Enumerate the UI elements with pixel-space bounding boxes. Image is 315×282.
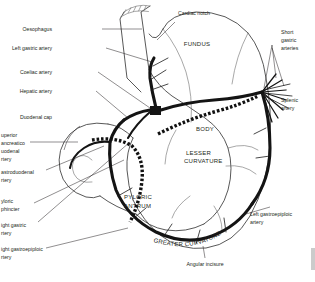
label-gastroduodenal-artery-line2: rtery (1, 177, 12, 183)
leader-short-gastric-3 (272, 48, 284, 86)
pyloric-sphincter-marker (92, 139, 142, 222)
label-pyloric-sphincter-line2: phincter (1, 206, 20, 212)
label-short-gastric-arteries-line3: arteries (281, 45, 299, 51)
label-angular-incisure: Angular incisure (186, 261, 223, 267)
region-label-pyloric-antrum-line1: PYLORIC (124, 194, 153, 200)
superior-pancreaticoduodenal-artery (70, 142, 110, 168)
label-splenic-artery-line1: Splenic (281, 97, 298, 103)
label-superior-pancreaticoduodenal-artery-line3: uodenal (1, 148, 19, 154)
label-short-gastric-arteries-line2: gastric (281, 37, 297, 43)
leader-hepatic (96, 91, 128, 118)
label-right-gastric-artery-line1: ight gastric (1, 222, 26, 228)
label-short-gastric-arteries-line1: Short (281, 29, 294, 35)
label-oesophagus: Oesophagus (23, 26, 53, 32)
region-label-pyloric-antrum-line2: ANTRUM (124, 203, 151, 209)
label-left-gastroepiploic-artery-line1: Left gastroepiploic (250, 211, 293, 217)
label-left-gastroepiploic-artery-line2: artery (250, 219, 264, 225)
leader-right-gastric (38, 142, 130, 222)
left-gastric-artery (150, 58, 156, 108)
leader-pyloric-sphincter (34, 160, 124, 203)
label-superior-pancreaticoduodenal-artery-line4: rtery (1, 156, 12, 162)
label-gastroduodenal-artery-line1: astroduodenal (1, 169, 34, 175)
leader-right-gastroepiploic (46, 228, 128, 248)
stomach-outline (59, 12, 270, 249)
leader-left-gastric (106, 48, 152, 62)
label-right-gastric-artery-line2: rtery (1, 230, 12, 236)
label-duodenal-cap: Duodenal cap (20, 114, 52, 120)
label-cardiac-notch: Cardiac notch (178, 10, 210, 16)
label-splenic-artery-line2: artery (281, 105, 295, 111)
label-right-gastroepiploic-artery-line1: ight gastroepiploic (1, 246, 43, 252)
label-pyloric-sphincter-line1: yloric (1, 198, 14, 204)
label-superior-pancreaticoduodenal-artery-line1: uperior (1, 132, 17, 138)
oesophagus-structure (120, 5, 150, 92)
scan-edge-artifact (311, 248, 315, 270)
right-gastroepiploic-artery (110, 142, 252, 240)
region-label-body: BODY (196, 126, 214, 132)
label-coeliac-artery: Coeliac artery (20, 69, 52, 75)
splenic-artery (161, 92, 262, 110)
stomach-anatomy-figure: FUNDUS BODY LESSER CURVATURE PYLORIC ANT… (0, 0, 315, 282)
leader-coeliac (98, 72, 150, 108)
leader-gastroduodenal (46, 146, 104, 170)
region-label-fundus: FUNDUS (184, 41, 211, 47)
label-left-gastric-artery: Left gastric artery (12, 45, 52, 51)
label-hepatic-artery: Hepatic artery (20, 88, 53, 94)
label-right-gastroepiploic-artery-line2: rtery (1, 254, 12, 260)
region-label-lesser-curvature-line2: CURVATURE (184, 158, 223, 164)
label-superior-pancreaticoduodenal-artery-line2: ancreatico (1, 140, 25, 146)
region-label-lesser-curvature-line1: LESSER (186, 150, 212, 156)
